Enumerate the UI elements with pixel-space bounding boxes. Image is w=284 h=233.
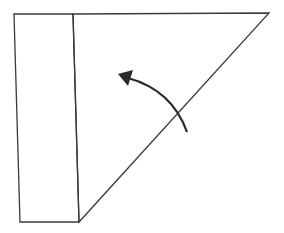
folded-flap-rectangle	[14, 14, 79, 222]
fold-diagram	[0, 0, 284, 233]
paper-triangle	[73, 13, 269, 222]
diagram-svg	[0, 0, 284, 233]
fold-arrow-icon	[128, 78, 187, 132]
